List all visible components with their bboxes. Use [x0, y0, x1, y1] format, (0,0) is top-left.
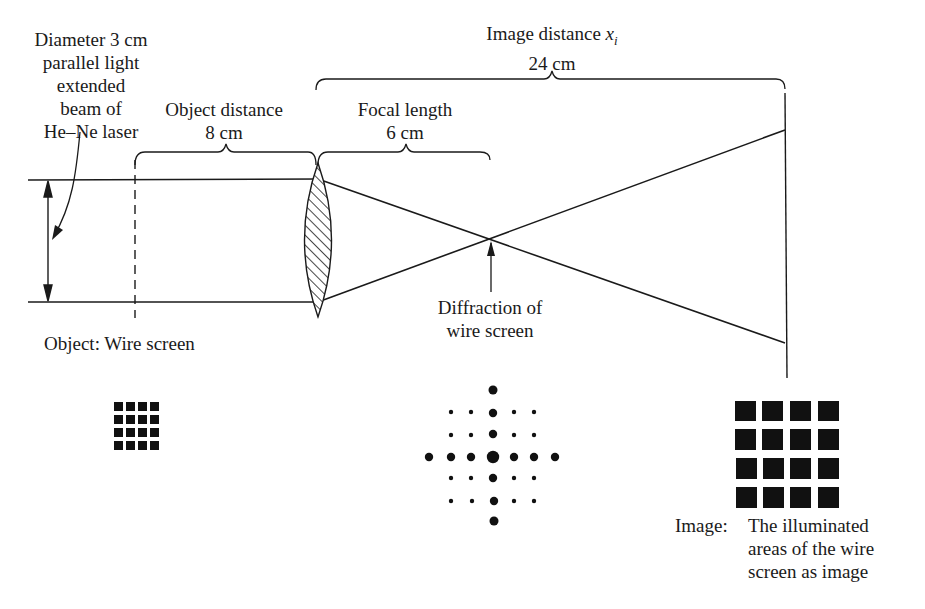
image-description-label: The illuminated areas of the wire screen…	[748, 514, 874, 583]
beam-label-line: Diameter 3 cm	[18, 28, 164, 51]
beam-label-line: extended	[18, 74, 164, 97]
beam-label-line: He–Ne laser	[18, 120, 164, 143]
diffraction-label: Diffraction of wire screen	[410, 296, 570, 342]
object-label: Object: Wire screen	[44, 332, 195, 355]
image-distance-value: 24 cm	[452, 52, 652, 75]
converging-lens	[290, 160, 350, 320]
beam-description-label: Diameter 3 cm parallel light extended be…	[18, 28, 164, 143]
diffraction-dot-pattern	[425, 386, 559, 526]
object-grid-pattern	[114, 402, 159, 450]
incoming-beam	[28, 179, 320, 302]
focal-length-title: Focal length	[335, 98, 475, 121]
focal-length-brace	[318, 144, 490, 165]
image-prefix-label: Image:	[675, 514, 728, 537]
focal-length-label: Focal length 6 cm	[335, 98, 475, 144]
beam-diameter-arrow	[44, 181, 52, 301]
object-distance-value: 8 cm	[144, 121, 304, 144]
beam-label-line: beam of	[18, 97, 164, 120]
image-label-line: screen as image	[748, 560, 874, 583]
diffraction-label-line: Diffraction of	[410, 296, 570, 319]
image-screen	[785, 93, 787, 378]
image-label-line: The illuminated	[748, 514, 874, 537]
object-distance-brace	[135, 144, 316, 165]
image-label-line: areas of the wire	[748, 537, 874, 560]
focal-length-value: 6 cm	[335, 121, 475, 144]
beam-label-line: parallel light	[18, 51, 164, 74]
diffraction-label-line: wire screen	[410, 319, 570, 342]
focal-point-arrow	[487, 241, 495, 292]
image-distance-title: Image distance xi	[452, 22, 652, 52]
image-distance-label: Image distance xi 24 cm	[452, 22, 652, 75]
object-distance-label: Object distance 8 cm	[144, 98, 304, 144]
image-grid-pattern	[735, 401, 839, 508]
beam-label-pointer	[52, 132, 80, 240]
object-distance-title: Object distance	[144, 98, 304, 121]
